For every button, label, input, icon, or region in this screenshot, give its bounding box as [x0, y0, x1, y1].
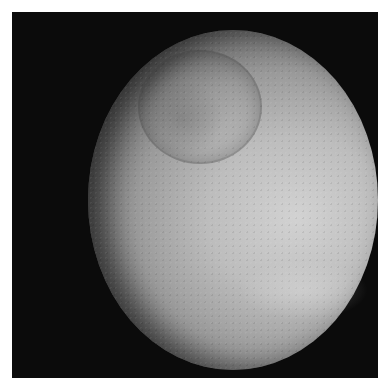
space-background — [12, 12, 378, 378]
bright-surface-band — [238, 260, 368, 320]
moon-disc — [88, 30, 378, 370]
large-crater — [138, 50, 262, 164]
